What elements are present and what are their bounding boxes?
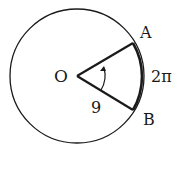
center-label: O <box>54 66 68 86</box>
radius-label: 9 <box>91 98 101 117</box>
point-a-label: A <box>139 23 152 42</box>
sector-diagram: O A B 9 2π <box>0 0 180 174</box>
arc-length-label: 2π <box>151 67 172 86</box>
point-b-label: B <box>143 110 155 129</box>
angle-arc <box>101 68 105 90</box>
angle-arrow-icon <box>100 66 106 71</box>
